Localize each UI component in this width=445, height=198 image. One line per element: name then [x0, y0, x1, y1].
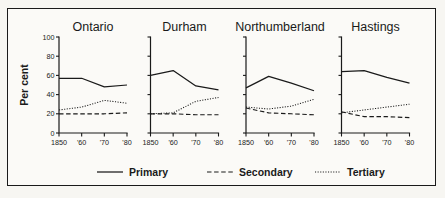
series-line-tertiary — [246, 99, 314, 109]
y-tick-label: 100 — [43, 33, 55, 42]
y-tick-label: 60 — [47, 71, 55, 80]
x-tick-label: '80 — [122, 138, 131, 147]
y-tick-label: 40 — [47, 90, 55, 99]
chart-legend: PrimarySecondaryTertiary — [97, 166, 385, 178]
x-tick-label: '70 — [287, 138, 296, 147]
panel-axes — [342, 37, 410, 133]
series-line-secondary — [59, 113, 127, 114]
series-line-primary — [246, 76, 314, 90]
panel-title: Ontario — [73, 20, 114, 34]
panel-hastings: Hastings1850'60'70'80 — [334, 20, 415, 147]
y-tick-label: 20 — [47, 109, 55, 118]
series-line-secondary — [246, 108, 314, 115]
series-line-primary — [342, 71, 410, 83]
series-line-primary — [151, 71, 219, 90]
y-tick-label: 80 — [47, 52, 55, 61]
legend-label-primary: Primary — [129, 166, 168, 178]
x-tick-label: '80 — [309, 138, 318, 147]
x-tick-label: '60 — [264, 138, 273, 147]
x-tick-label: '80 — [405, 138, 414, 147]
x-tick-label: '60 — [359, 138, 368, 147]
legend-label-tertiary: Tertiary — [347, 166, 385, 178]
x-tick-label: '70 — [100, 138, 109, 147]
panels-group: Ontario0204060801001850'60'70'80Durham18… — [18, 20, 414, 147]
x-tick-label: 1850 — [51, 138, 67, 147]
legend-label-secondary: Secondary — [239, 166, 293, 178]
series-line-secondary — [151, 114, 219, 115]
y-tick-label: 0 — [51, 129, 55, 138]
panel-axes — [246, 37, 314, 133]
figure-container: Ontario0204060801001850'60'70'80Durham18… — [0, 0, 445, 198]
panel-ontario: Ontario0204060801001850'60'70'80 — [43, 20, 132, 147]
panel-title: Hastings — [351, 20, 400, 34]
x-tick-label: 1850 — [143, 138, 159, 147]
y-axis-label: Per cent — [18, 64, 30, 106]
x-tick-label: 1850 — [238, 138, 254, 147]
panel-axes — [59, 37, 127, 133]
x-tick-label: '60 — [77, 138, 86, 147]
series-line-tertiary — [151, 97, 219, 113]
x-tick-label: 1850 — [334, 138, 350, 147]
x-tick-label: '80 — [214, 138, 223, 147]
series-line-secondary — [342, 112, 410, 118]
series-line-primary — [59, 78, 127, 87]
series-line-tertiary — [59, 100, 127, 110]
panel-title: Durham — [162, 20, 206, 34]
x-tick-label: '70 — [191, 138, 200, 147]
multi-panel-line-chart: Ontario0204060801001850'60'70'80Durham18… — [0, 0, 445, 198]
x-tick-label: '60 — [168, 138, 177, 147]
panel-northumberland: Northumberland1850'60'70'80 — [235, 20, 325, 147]
panel-axes — [151, 37, 219, 133]
panel-title: Northumberland — [235, 20, 325, 34]
panel-durham: Durham1850'60'70'80 — [143, 20, 224, 147]
x-tick-label: '70 — [382, 138, 391, 147]
series-line-tertiary — [342, 104, 410, 113]
